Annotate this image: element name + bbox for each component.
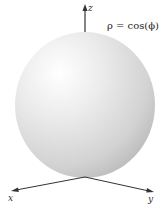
- equation-label: ρ = cos(ϕ): [107, 20, 159, 31]
- z-axis: [83, 4, 88, 32]
- x-axis-label: x: [8, 193, 13, 203]
- y-axis-label: y: [147, 194, 154, 204]
- sphere-diagram: z x y ρ = cos(ϕ): [0, 0, 162, 212]
- y-axis: [85, 177, 154, 193]
- z-axis-label: z: [87, 3, 93, 13]
- x-axis: [11, 177, 85, 192]
- sphere-surface: [15, 32, 155, 178]
